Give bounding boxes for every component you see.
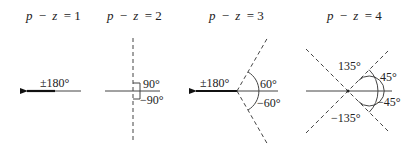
title-pz-2: p − z = 2 (106, 8, 162, 23)
label-60: 60° (260, 77, 277, 91)
title-pz-1: p − z = 1 (25, 8, 81, 23)
label-90: 90° (143, 77, 160, 91)
label-neg60: −60° (257, 96, 281, 110)
root-locus-asymptote-diagrams: p − z = 1 ±180° p − z = 2 90° −90° p − z… (0, 0, 420, 151)
title-pz-4: p − z = 4 (326, 8, 382, 23)
label-45: 45° (380, 70, 397, 84)
label-neg45: −45° (377, 95, 401, 109)
label-pm180: ±180° (200, 76, 230, 90)
diagram-pz-1: p − z = 1 ±180° (25, 8, 81, 91)
diagram-pz-4: p − z = 4 135° 45° −45° −135° (306, 8, 401, 133)
label-neg90: −90° (140, 93, 164, 107)
diagram-pz-3: p − z = 3 ±180° 60° −60° (196, 8, 281, 145)
title-pz-3: p − z = 3 (208, 8, 264, 23)
label-135: 135° (338, 59, 361, 73)
diagram-pz-2: p − z = 2 90° −90° (105, 8, 164, 143)
label-neg135: −135° (331, 111, 361, 125)
label-pm180: ±180° (40, 76, 70, 90)
centroid-point (347, 90, 350, 93)
